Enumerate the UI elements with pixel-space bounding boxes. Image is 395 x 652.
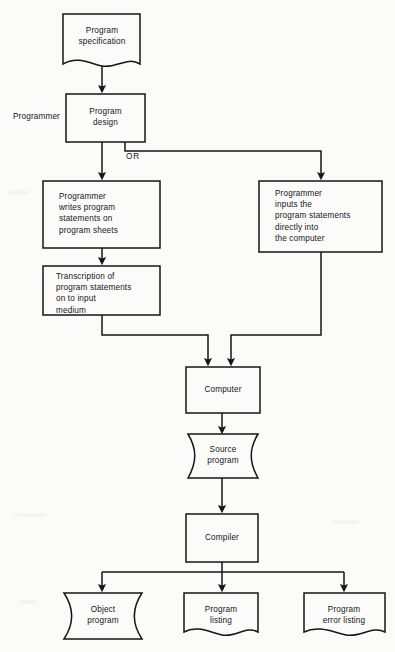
flowchart-canvas: [0, 0, 395, 652]
flowchart-page: Program specification Program design Pro…: [0, 0, 395, 652]
edge-design-to-inputs: [125, 142, 321, 176]
label-source-program: Source program: [187, 444, 259, 466]
label-program-specification: Program specification: [63, 25, 141, 47]
label-programmer-writes: Programmer writes program statements on …: [59, 191, 159, 236]
label-program-listing: Program listing: [184, 604, 258, 626]
label-computer: Computer: [186, 384, 260, 395]
label-programmer-inputs: Programmer inputs the program statements…: [275, 188, 381, 244]
label-object-program: Object program: [64, 604, 142, 626]
edge-inputs-to-computer: [231, 252, 321, 362]
label-program-design: Program design: [66, 106, 145, 128]
label-or-branch: OR: [126, 152, 140, 161]
label-transcription: Transcription of program statements on t…: [56, 271, 160, 316]
edge-transcription-to-computer: [102, 315, 208, 362]
label-program-error-listing: Program error listing: [303, 604, 385, 626]
label-programmer-role: Programmer: [13, 112, 60, 121]
label-compiler: Compiler: [186, 532, 258, 543]
